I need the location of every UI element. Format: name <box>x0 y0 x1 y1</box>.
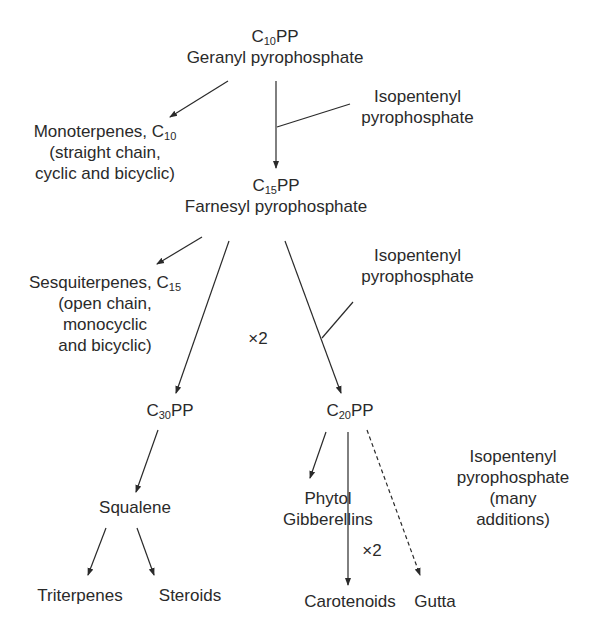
arrow-geranyl-to-monoterpenes <box>170 81 228 117</box>
node-isopentenyl-pp-1: Isopentenyl pyrophosphate <box>355 86 480 128</box>
node-c20pp: C20PP <box>310 400 390 421</box>
name-farnesyl: Farnesyl pyrophosphate <box>176 196 376 217</box>
name-geranyl: Geranyl pyrophosphate <box>180 47 370 68</box>
node-carotenoids: Carotenoids <box>295 591 405 612</box>
node-steroids: Steroids <box>150 585 230 606</box>
node-squalene: Squalene <box>90 497 180 518</box>
node-c30pp: C30PP <box>130 400 210 421</box>
node-monoterpenes: Monoterpenes, C10 (straight chain, cycli… <box>14 121 196 184</box>
node-isopentenyl-pp-3: Isopentenyl pyrophosphate (many addition… <box>448 446 578 530</box>
arrow-squalene-to-steroids <box>137 528 154 575</box>
arrow-farnesyl-to-sesquiterpenes <box>157 237 202 264</box>
ipp-join-line-2 <box>322 302 353 338</box>
formula-c15pp: C15PP <box>176 175 376 196</box>
node-phytol-gibberellins: Phytol Gibberellins <box>278 488 378 530</box>
node-c15pp: C15PP Farnesyl pyrophosphate <box>176 175 376 217</box>
node-triterpenes: Triterpenes <box>30 585 130 606</box>
node-sesquiterpenes: Sesquiterpenes, C15 (open chain, monocyc… <box>14 272 196 356</box>
node-c10pp: C10PP Geranyl pyrophosphate <box>180 26 370 68</box>
arrow-farnesyl-to-c20pp <box>285 241 341 393</box>
arrow-c30pp-to-squalene <box>136 430 158 492</box>
arrow-c20pp-to-phytol <box>310 432 326 478</box>
node-isopentenyl-pp-2: Isopentenyl pyrophosphate <box>355 245 480 287</box>
node-gutta: Gutta <box>405 591 465 612</box>
arrow-squalene-to-triterpenes <box>88 528 106 575</box>
multiplier-x2-c30: ×2 <box>238 328 278 349</box>
multiplier-x2-c40: ×2 <box>352 540 392 561</box>
ipp-join-line-1 <box>277 104 350 127</box>
formula-c10pp: C10PP <box>180 26 370 47</box>
